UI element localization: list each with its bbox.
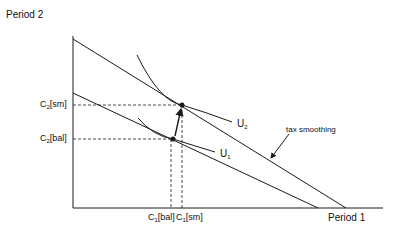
- curve-label-u1: U1: [220, 149, 231, 160]
- shift-arrow: [175, 109, 181, 136]
- indifference-curve-u1: [138, 118, 215, 152]
- y-tick-c2-bal: C2[bal]: [40, 134, 67, 144]
- point-balanced: [171, 137, 176, 142]
- annotation-arrow: [271, 134, 289, 158]
- curve-label-u2: U2: [237, 119, 248, 130]
- y-tick-c2-sm: C2[sm]: [40, 100, 67, 110]
- x-tick-c1-bal: C1[bal]: [148, 213, 175, 223]
- budget-line-balanced: [73, 93, 318, 208]
- point-smoothing: [180, 103, 185, 108]
- y-axis-title: Period 2: [6, 10, 43, 20]
- annotation-tax-smoothing: tax smoothing: [286, 126, 336, 134]
- x-axis-title: Period 1: [328, 213, 365, 223]
- budget-line-tax-smoothing: [73, 39, 346, 208]
- x-tick-c1-sm: C1[sm]: [176, 213, 203, 223]
- indifference-curve-u2: [137, 55, 232, 122]
- intertemporal-consumption-diagram: [0, 0, 407, 235]
